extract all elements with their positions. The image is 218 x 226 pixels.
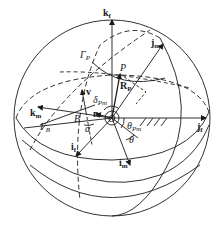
diagram-canvas: kf jm ΓP P RP v δPm km n O B ΓB α θPm jf… <box>0 0 218 226</box>
label-i-f: if <box>71 141 77 154</box>
label-r-p: RP <box>120 80 132 93</box>
label-b: B <box>74 113 80 124</box>
label-j-m: jm <box>150 37 160 50</box>
great-circle-lower-2 <box>30 165 200 198</box>
label-v: v <box>86 86 91 97</box>
label-delta-pm: δPm <box>93 94 107 107</box>
label-k-f: kf <box>103 7 112 20</box>
b-line-2 <box>40 105 95 125</box>
sphere-diagram: kf jm ΓP P RP v δPm km n O B ΓB α θPm jf… <box>0 0 218 226</box>
label-theta: θ <box>129 134 134 145</box>
great-circle-lower <box>22 125 209 182</box>
hatch-marks <box>140 118 167 126</box>
label-gamma-p: ΓP <box>79 49 91 62</box>
label-n: n <box>93 108 99 119</box>
label-k-m: km <box>30 107 42 120</box>
label-gamma-b: ΓB <box>39 121 51 134</box>
label-o: O <box>108 113 115 124</box>
i-f-axis <box>76 118 112 156</box>
label-alpha: α <box>85 123 91 134</box>
label-p: P <box>119 62 126 73</box>
label-j-f: jf <box>196 121 203 134</box>
